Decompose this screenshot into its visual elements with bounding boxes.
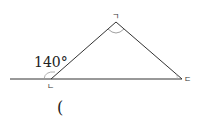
angle-arc-top [108,29,124,33]
vertex-label-top: ㄱ [112,12,119,21]
vertex-label-right: ㄷ [184,75,191,84]
triangle-diagram: 140° ㄱ ㄴ ㄷ ( [0,0,209,123]
vertex-label-left: ㄴ [47,82,54,91]
exterior-angle-arc [44,72,55,79]
side-right [116,22,182,79]
exterior-angle-label: 140° [34,54,68,70]
answer-blank: ( [57,98,63,117]
side-left [51,22,116,79]
